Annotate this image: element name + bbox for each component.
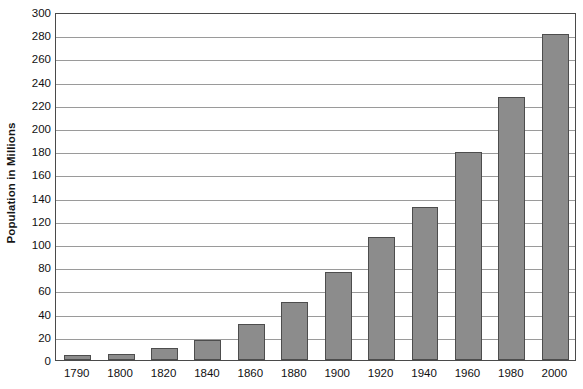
bar	[194, 340, 221, 360]
x-tick-label: 2000	[533, 366, 576, 380]
x-tick-label: 1820	[142, 366, 185, 380]
y-axis-tick-labels: 0204060801001201401601802002202402602803…	[20, 13, 51, 361]
x-tick-label: 1860	[229, 366, 272, 380]
y-tick-label: 160	[20, 170, 51, 181]
y-tick-label: 20	[20, 332, 51, 343]
x-tick-label: 1800	[98, 366, 141, 380]
bar	[412, 207, 439, 360]
y-tick-label: 240	[20, 77, 51, 88]
y-tick-label: 40	[20, 309, 51, 320]
y-tick-label: 280	[20, 31, 51, 42]
y-tick-label: 300	[20, 8, 51, 19]
y-tick-label: 0	[20, 356, 51, 367]
x-tick-label: 1940	[402, 366, 445, 380]
bars-layer	[56, 14, 575, 360]
y-tick-label: 200	[20, 124, 51, 135]
x-tick-label: 1790	[55, 366, 98, 380]
bar	[542, 34, 569, 360]
y-tick-label: 100	[20, 240, 51, 251]
bar	[281, 302, 308, 360]
y-tick-label: 260	[20, 54, 51, 65]
y-tick-label: 80	[20, 263, 51, 274]
y-tick-label: 140	[20, 193, 51, 204]
plot-area	[55, 13, 576, 361]
y-tick-label: 180	[20, 147, 51, 158]
x-tick-label: 1880	[272, 366, 315, 380]
x-tick-label: 1960	[446, 366, 489, 380]
bar	[325, 272, 352, 360]
bar	[151, 348, 178, 360]
bar	[455, 152, 482, 360]
y-tick-label: 220	[20, 100, 51, 111]
bar	[498, 97, 525, 360]
y-tick-label: 60	[20, 286, 51, 297]
x-tick-label: 1900	[316, 366, 359, 380]
y-tick-label: 120	[20, 216, 51, 227]
x-tick-label: 1920	[359, 366, 402, 380]
bar	[108, 354, 135, 360]
bar	[368, 237, 395, 360]
bar	[64, 355, 91, 360]
x-tick-label: 1980	[489, 366, 532, 380]
x-tick-label: 1840	[185, 366, 228, 380]
bar-chart: Population in Millions 02040608010012014…	[0, 0, 583, 389]
y-axis-title-label: Population in Millions	[5, 122, 17, 243]
bar	[238, 324, 265, 360]
y-axis-title: Population in Millions	[0, 0, 22, 366]
x-axis-tick-labels: 1790180018201840186018801900192019401960…	[55, 366, 576, 386]
